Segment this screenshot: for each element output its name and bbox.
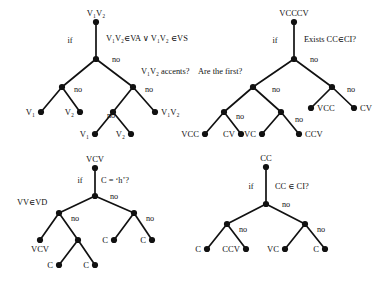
edge-q1-yes: [227, 204, 266, 224]
edge-q2-yes: [224, 87, 253, 112]
node-leaf-1: [202, 131, 208, 137]
tree1-no-label-4: no: [107, 111, 115, 120]
tree3-no-label-1: no: [110, 192, 118, 201]
edge-q3-yes: [114, 213, 134, 240]
decision-trees-figure: V₁V₂ if V₁V₂∈VA ∨ V₁V₂ ∈VS no V₁V₂ accen…: [0, 0, 386, 292]
node-leaf-2: [56, 262, 62, 268]
tree3-leaf-2: C: [47, 260, 53, 270]
tree4-leaf-1: C: [195, 244, 201, 254]
tree1-leaf-4: V₂: [116, 129, 125, 139]
node-q3: [130, 84, 136, 90]
node-leaf-4: [296, 131, 302, 137]
tree1-if-label: if: [67, 36, 72, 45]
tree4-no-label-3: no: [317, 225, 325, 234]
tree1-no-label-2: no: [74, 85, 82, 94]
tree2-leaf-1: VCC: [181, 129, 199, 139]
node-q4: [221, 109, 227, 115]
tree3-condition-1: C = ‘h’?: [101, 176, 129, 185]
node-root: [291, 19, 297, 25]
tree1-no-label-1: no: [112, 55, 120, 64]
tree3-leaf-4: C: [102, 235, 108, 245]
node-leaf-1: [204, 246, 210, 252]
tree2-no-label-3: no: [347, 85, 355, 94]
node-leaf-1: [37, 237, 43, 243]
node-leaf-5: [152, 109, 158, 115]
tree2-condition-2: Are the first?: [198, 67, 242, 76]
node-leaf-3: [92, 262, 98, 268]
edge-q4-yes: [59, 240, 78, 265]
node-q1: [92, 193, 98, 199]
tree2-root-label: VCCCV: [279, 8, 309, 18]
tree2-no-label-5: no: [295, 115, 303, 124]
tree4-condition-1: CC ∈ CI?: [275, 182, 309, 191]
tree4-leaf-4: C: [313, 244, 319, 254]
node-root: [92, 165, 98, 171]
tree3-condition-2: VV∈VD: [17, 198, 47, 207]
tree3-leaf-3: C: [83, 260, 89, 270]
tree2-leaf-3: VC: [244, 129, 256, 139]
node-q5: [278, 109, 284, 115]
tree1-leaf-3: V₁: [80, 129, 89, 139]
node-q3: [302, 221, 308, 227]
tree3-root-label: VCV: [86, 154, 105, 164]
tree1-condition-1: V₁V₂∈VA ∨ V₁V₂ ∈VS: [106, 34, 188, 43]
node-leaf-6: [351, 105, 357, 111]
tree2-no-label-4: no: [236, 112, 244, 121]
edge-q5-yes: [262, 112, 281, 134]
tree3-if-label: if: [77, 176, 82, 185]
node-leaf-4: [111, 237, 117, 243]
tree-vcv: VCV if C = ‘h’? no VV∈VD no no VCV C C C…: [17, 154, 155, 270]
node-leaf-1: [38, 109, 44, 115]
edge-q2-yes: [41, 87, 62, 112]
tree-v1v2: V₁V₂ if V₁V₂∈VA ∨ V₁V₂ ∈VS no V₁V₂ accen…: [26, 8, 190, 139]
node-leaf-2: [243, 246, 249, 252]
tree3-no-label-2: no: [71, 214, 79, 223]
tree3-leaf-5: C: [140, 235, 146, 245]
tree3-leaf-1: VCV: [31, 244, 50, 254]
tree-cc: CC if CC ∈ CI? no no no C CCV VC C: [195, 153, 328, 254]
node-root: [263, 164, 269, 170]
tree4-leaf-2: CCV: [222, 244, 240, 254]
tree2-leaf-2: CV: [223, 129, 236, 139]
node-leaf-2: [77, 109, 83, 115]
node-leaf-4: [128, 131, 134, 137]
tree1-condition-2: V₁V₂ accents?: [141, 67, 190, 76]
tree-vcccv: VCCCV if Exists CC∈CI? no Are the first?…: [181, 8, 372, 139]
tree4-if-label: if: [248, 182, 253, 191]
trees-canvas: V₁V₂ if V₁V₂∈VA ∨ V₁V₂ ∈VS no V₁V₂ accen…: [0, 0, 386, 292]
node-q2: [250, 84, 256, 90]
tree1-leaf-5: V₁V₂: [161, 107, 179, 117]
node-q1: [291, 56, 297, 62]
tree2-leaf-4: CCV: [305, 129, 323, 139]
node-root: [93, 19, 99, 25]
node-q3: [329, 84, 335, 90]
edge-q2-yes: [40, 213, 59, 240]
node-leaf-4: [322, 246, 328, 252]
tree1-leaf-1: V₁: [26, 107, 35, 117]
tree1-root-label: V₁V₂: [87, 8, 105, 18]
tree4-leaf-3: VC: [267, 244, 279, 254]
node-q1: [93, 56, 99, 62]
node-q2: [56, 210, 62, 216]
node-q1: [263, 201, 269, 207]
tree1-leaf-2: V₂: [65, 107, 74, 117]
tree3-no-label-3: no: [146, 214, 154, 223]
edge-q3-yes: [113, 87, 133, 112]
edge-q3-yes: [285, 224, 305, 249]
tree1-no-label-3: no: [145, 85, 153, 94]
tree2-no-label-2: no: [272, 85, 280, 94]
node-q2: [224, 221, 230, 227]
tree2-if-label: if: [272, 36, 277, 45]
tree4-root-label: CC: [260, 153, 272, 163]
edge-q4-yes: [205, 112, 224, 134]
edge-q1-yes: [62, 59, 96, 87]
tree4-no-label-2: no: [239, 225, 247, 234]
node-q2: [59, 84, 65, 90]
tree2-leaf-5: VCC: [317, 103, 335, 113]
node-leaf-3: [259, 131, 265, 137]
node-leaf-3: [282, 246, 288, 252]
node-leaf-5: [308, 105, 314, 111]
node-q3: [131, 210, 137, 216]
node-leaf-5: [149, 237, 155, 243]
edge-q1-yes: [253, 59, 294, 87]
